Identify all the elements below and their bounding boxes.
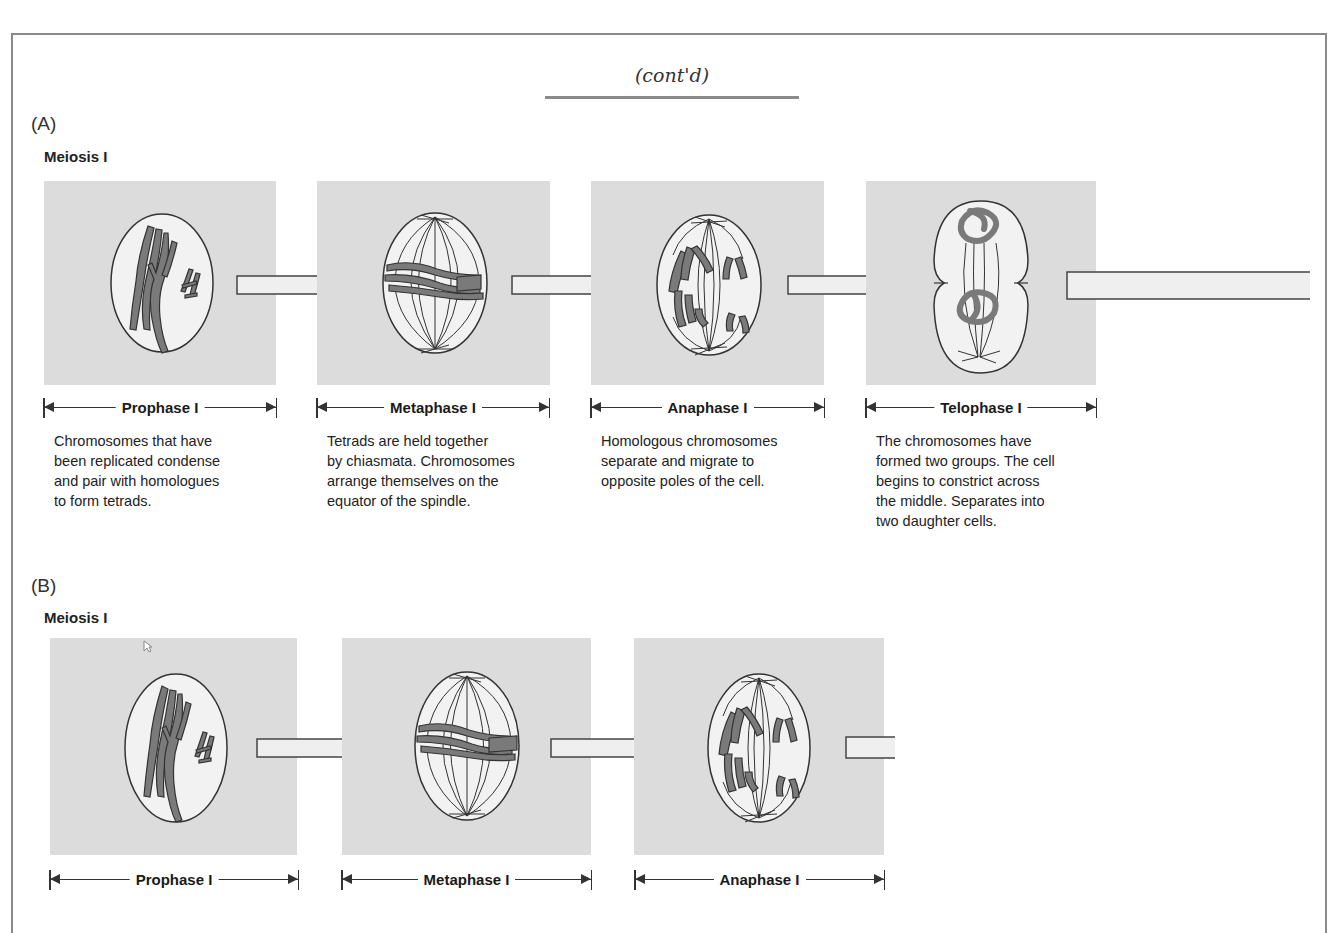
arrow-continuation-icon bbox=[845, 736, 895, 764]
phase-label: Prophase I bbox=[116, 398, 205, 418]
phase-bar-telophase-a: Telophase I bbox=[865, 398, 1097, 418]
phase-bar-anaphase-a: Anaphase I bbox=[590, 398, 825, 418]
description-line: two daughter cells. bbox=[876, 511, 1055, 531]
description-telophase: The chromosomes have formed two groups. … bbox=[876, 431, 1055, 531]
phase-bar-anaphase-b: Anaphase I bbox=[634, 870, 885, 890]
description-metaphase: Tetrads are held together by chiasmata. … bbox=[327, 431, 515, 511]
phase-label: Prophase I bbox=[130, 870, 219, 890]
phase-label: Anaphase I bbox=[661, 398, 753, 418]
description-line: The chromosomes have bbox=[876, 431, 1055, 451]
description-anaphase: Homologous chromosomes separate and migr… bbox=[601, 431, 778, 491]
description-line: been replicated condense bbox=[54, 451, 220, 471]
section-a-title: Meiosis I bbox=[44, 148, 107, 165]
phase-bar-prophase-b: Prophase I bbox=[49, 870, 299, 890]
phase-bar-metaphase-b: Metaphase I bbox=[341, 870, 592, 890]
description-line: by chiasmata. Chromosomes bbox=[327, 451, 515, 471]
description-line: formed two groups. The cell bbox=[876, 451, 1055, 471]
arrow-continuation-icon bbox=[1066, 271, 1310, 305]
phase-bar-prophase-a: Prophase I bbox=[43, 398, 277, 418]
description-line: opposite poles of the cell. bbox=[601, 471, 778, 491]
phase-bar-metaphase-a: Metaphase I bbox=[316, 398, 550, 418]
mouse-cursor-icon bbox=[143, 640, 153, 658]
description-prophase: Chromosomes that have been replicated co… bbox=[54, 431, 220, 511]
section-a-letter: (A) bbox=[31, 113, 56, 135]
description-line: Chromosomes that have bbox=[54, 431, 220, 451]
description-line: begins to constrict across bbox=[876, 471, 1055, 491]
section-b-letter: (B) bbox=[31, 575, 56, 597]
panel-telophase-a bbox=[866, 181, 1096, 385]
description-line: and pair with homologues bbox=[54, 471, 220, 491]
header-rule bbox=[545, 96, 799, 99]
description-line: to form tetrads. bbox=[54, 491, 220, 511]
telophase-cell-illustration bbox=[866, 181, 1096, 385]
description-line: arrange themselves on the bbox=[327, 471, 515, 491]
phase-label: Anaphase I bbox=[713, 870, 805, 890]
description-line: Tetrads are held together bbox=[327, 431, 515, 451]
header-title: (cont'd) bbox=[545, 64, 799, 86]
section-b-title: Meiosis I bbox=[44, 609, 107, 626]
description-line: Homologous chromosomes bbox=[601, 431, 778, 451]
phase-label: Metaphase I bbox=[418, 870, 516, 890]
phase-label: Telophase I bbox=[934, 398, 1027, 418]
description-line: the middle. Separates into bbox=[876, 491, 1055, 511]
description-line: equator of the spindle. bbox=[327, 491, 515, 511]
description-line: separate and migrate to bbox=[601, 451, 778, 471]
phase-label: Metaphase I bbox=[384, 398, 482, 418]
